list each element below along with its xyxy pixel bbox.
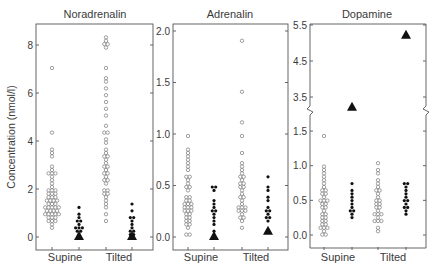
open-circle-marker: [324, 206, 327, 209]
open-circle-marker: [378, 189, 381, 192]
filled-circle-marker: [406, 199, 409, 202]
filled-circle-marker: [350, 216, 353, 219]
open-circle-marker: [186, 179, 189, 182]
open-circle-marker: [50, 216, 53, 219]
filled-circle-marker: [266, 206, 269, 209]
open-circle-marker: [239, 196, 242, 199]
open-circle-marker: [242, 182, 245, 185]
open-circle-marker: [188, 196, 191, 199]
open-circle-marker: [240, 90, 243, 93]
open-circle-marker: [244, 209, 247, 212]
triangle-marker: [347, 102, 357, 111]
open-circle-marker: [322, 165, 325, 168]
open-circle-marker: [322, 168, 325, 171]
open-circle-marker: [104, 199, 107, 202]
filled-circle-marker: [77, 226, 80, 229]
open-circle-marker: [49, 209, 52, 212]
open-circle-marker: [321, 233, 324, 236]
open-circle-marker: [322, 179, 325, 182]
open-circle-marker: [54, 219, 57, 222]
y-tick-label: 1.0: [293, 160, 307, 171]
open-circle-marker: [103, 165, 106, 168]
open-circle-marker: [104, 148, 107, 151]
open-circle-marker: [54, 206, 57, 209]
filled-circle-marker: [212, 199, 215, 202]
open-circle-marker: [321, 206, 324, 209]
filled-circle-marker: [266, 219, 269, 222]
open-circle-marker: [103, 155, 106, 158]
filled-circle-marker: [211, 185, 214, 188]
open-circle-marker: [321, 202, 324, 205]
open-circle-marker: [322, 172, 325, 175]
y-tick-label: 0.0: [293, 230, 307, 241]
open-circle-marker: [188, 223, 191, 226]
open-circle-marker: [186, 162, 189, 165]
open-circle-marker: [239, 185, 242, 188]
open-circle-marker: [376, 216, 379, 219]
open-circle-marker: [50, 172, 53, 175]
filled-circle-marker: [212, 202, 215, 205]
open-circle-marker: [376, 226, 379, 229]
y-ticks: 0.00.51.01.52.0: [156, 26, 288, 243]
open-circle-marker: [106, 43, 109, 46]
open-circle-marker: [185, 185, 188, 188]
open-circle-marker: [188, 185, 191, 188]
filled-circle-marker: [77, 223, 80, 226]
triangle-marker: [127, 231, 137, 240]
open-circle-marker: [322, 182, 325, 185]
open-circle-marker: [237, 209, 240, 212]
filled-circle-marker: [350, 206, 353, 209]
filled-circle-marker: [352, 209, 355, 212]
open-circle-marker: [185, 196, 188, 199]
filled-circle-marker: [350, 202, 353, 205]
panel-title: Adrenalin: [207, 8, 253, 20]
open-circle-marker: [321, 219, 324, 222]
y-tick-label: 0.5: [156, 180, 170, 191]
open-circle-marker: [106, 189, 109, 192]
open-circle-marker: [186, 148, 189, 151]
filled-circle-marker: [77, 216, 80, 219]
open-circle-marker: [240, 151, 243, 154]
x-category-tilted: Tilted: [380, 251, 407, 263]
open-circle-marker: [104, 151, 107, 154]
open-circle-marker: [50, 219, 53, 222]
x-category-supine: Supine: [184, 251, 218, 263]
filled-circle-marker: [212, 219, 215, 222]
open-circle-marker: [47, 206, 50, 209]
open-circle-marker: [186, 206, 189, 209]
open-circle-marker: [376, 219, 379, 222]
open-circle-marker: [103, 192, 106, 195]
open-circle-marker: [240, 206, 243, 209]
open-circle-marker: [380, 213, 383, 216]
open-circle-marker: [47, 202, 50, 205]
open-circle-marker: [373, 219, 376, 222]
open-circle-marker: [376, 182, 379, 185]
filled-circle-marker: [350, 182, 353, 185]
filled-circle-marker: [77, 213, 80, 216]
filled-circle-marker: [214, 185, 217, 188]
open-circle-marker: [50, 185, 53, 188]
open-circle-marker: [186, 182, 189, 185]
panel-dopamine: Dopamine 0.00.51.01.53.54.55.5 Supine Ti…: [293, 8, 429, 263]
open-circle-marker: [106, 179, 109, 182]
open-circle-marker: [322, 196, 325, 199]
filled-circle-marker: [350, 199, 353, 202]
open-circle-marker: [373, 213, 376, 216]
open-circle-marker: [186, 189, 189, 192]
open-circle-marker: [104, 107, 107, 110]
triangle-marker: [74, 231, 84, 240]
triangle-marker: [263, 226, 273, 235]
y-tick-label: 4.5: [293, 56, 307, 67]
open-circle-marker: [376, 179, 379, 182]
open-circle-marker: [188, 199, 191, 202]
open-circle-marker: [239, 216, 242, 219]
y-tick-label: 1.0: [156, 129, 170, 140]
open-circle-marker: [186, 226, 189, 229]
open-circle-marker: [47, 219, 50, 222]
data-points: [183, 39, 273, 240]
open-circle-marker: [185, 175, 188, 178]
open-circle-marker: [244, 206, 247, 209]
filled-circle-marker: [81, 226, 84, 229]
open-circle-marker: [321, 213, 324, 216]
open-circle-marker: [106, 165, 109, 168]
